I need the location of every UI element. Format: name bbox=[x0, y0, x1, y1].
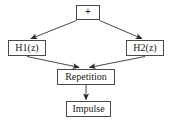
edge-h2-to-repetition bbox=[90, 57, 146, 68]
node-summation[interactable]: + bbox=[76, 5, 100, 20]
node-h2-label: H2(z) bbox=[133, 43, 156, 53]
edge-sum-to-h1 bbox=[31, 21, 77, 39]
node-impulse[interactable]: Impulse bbox=[66, 101, 111, 117]
node-h2[interactable]: H2(z) bbox=[126, 40, 164, 56]
node-h1[interactable]: H1(z) bbox=[8, 40, 46, 56]
flowchart-diagram: + H1(z) H2(z) Repetition Impulse bbox=[0, 0, 169, 123]
edge-sum-to-h2 bbox=[100, 21, 143, 39]
node-h1-label: H1(z) bbox=[15, 43, 38, 53]
node-summation-label: + bbox=[85, 7, 91, 17]
node-repetition-label: Repetition bbox=[65, 72, 107, 82]
node-impulse-label: Impulse bbox=[72, 104, 104, 114]
edge-h1-to-repetition bbox=[27, 57, 79, 68]
node-repetition[interactable]: Repetition bbox=[57, 69, 115, 85]
